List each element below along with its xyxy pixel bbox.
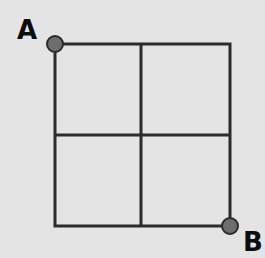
point-b-dot (222, 218, 238, 234)
point-b-label: B (243, 229, 263, 255)
grid-diagram (0, 0, 265, 258)
point-a-dot (47, 36, 63, 52)
point-a-label: A (17, 17, 37, 43)
